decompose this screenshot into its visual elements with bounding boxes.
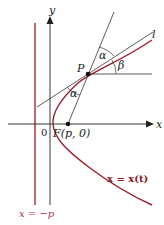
y-axis-label: y [48,4,56,17]
origin-label: 0 [41,127,47,138]
directrix-label: x = −p [19,208,55,219]
x-axis-label: x [156,118,163,131]
focal-ray [68,12,114,124]
alpha-bottom-label: α [70,87,78,100]
focus-label: F(p, 0) [52,127,90,140]
beta-label: β [117,59,124,72]
tangent-line [37,32,153,107]
parabola-reflection-diagram: y x l P 0 F(p, 0) α β α x = x(t) x = −p [0,0,164,225]
curve-label: x = x(t) [107,173,148,184]
alpha-top-label: α [99,49,107,62]
tangent-label: l [152,28,156,41]
focus-point [66,122,71,127]
point-p-label: P [76,62,85,75]
point-p [86,72,91,77]
y-axis-arrow-icon [47,16,54,24]
x-axis-arrow-icon [146,121,154,128]
